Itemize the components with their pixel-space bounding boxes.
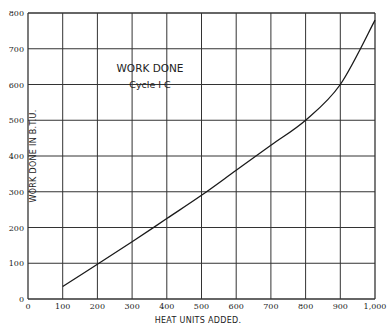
x-tick-label: 900 bbox=[333, 302, 348, 311]
chart-subtitle: Cycle I C bbox=[129, 79, 171, 90]
x-tick-label: 100 bbox=[55, 302, 70, 311]
y-tick-label: 700 bbox=[9, 45, 24, 54]
y-tick-label: 100 bbox=[9, 259, 24, 268]
x-tick-label: 500 bbox=[194, 302, 209, 311]
y-tick-label: 500 bbox=[9, 116, 24, 125]
y-axis-label: WORK DONE IN B.T.U. bbox=[29, 109, 38, 202]
x-tick-label: 700 bbox=[263, 302, 278, 311]
x-tick-label: 800 bbox=[298, 302, 313, 311]
y-tick-label: 600 bbox=[9, 81, 24, 90]
y-tick-label: 0 bbox=[19, 295, 24, 304]
grid-lines bbox=[28, 13, 375, 299]
y-tick-label: 800 bbox=[9, 9, 24, 18]
chart-title: WORK DONE bbox=[116, 62, 183, 74]
y-tick-label: 300 bbox=[9, 188, 24, 197]
work-done-curve bbox=[63, 20, 375, 286]
y-tick-label: 200 bbox=[9, 224, 24, 233]
y-tick-label: 400 bbox=[9, 152, 24, 161]
x-tick-label: 200 bbox=[90, 302, 105, 311]
x-tick-label: 1,000 bbox=[364, 302, 387, 311]
x-tick-label: 400 bbox=[159, 302, 174, 311]
x-tick-label: 0 bbox=[25, 302, 30, 311]
x-tick-label: 300 bbox=[124, 302, 139, 311]
x-tick-label: 600 bbox=[229, 302, 244, 311]
y-axis-ticks: 0100200300400500600700800 bbox=[9, 9, 24, 304]
work-done-chart: 0100200300400500600700800 01002003004005… bbox=[0, 0, 390, 328]
x-axis-ticks: 01002003004005006007008009001,000 bbox=[25, 302, 386, 311]
x-axis-label: HEAT UNITS ADDED. bbox=[155, 316, 242, 325]
